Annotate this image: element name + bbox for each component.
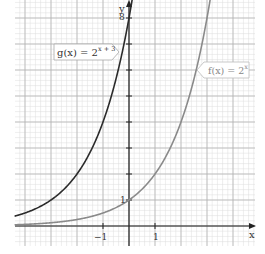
x-axis-label: x [249, 229, 255, 240]
plot-area: g(x) = 2x + 3 f(x) = 2x y 8 1 −1 1 x [0, 0, 265, 254]
f-label-text: f(x) = 2x [208, 63, 248, 76]
x-tick-neg1-label: −1 [94, 232, 107, 242]
graph-figure: g(x) = 2x + 3 f(x) = 2x y 8 1 −1 1 x [0, 0, 265, 254]
y-tick-1-label: 1 [120, 195, 126, 205]
major-grid [15, 0, 255, 246]
curve-g [15, 0, 133, 216]
x-tick-1-label: 1 [153, 232, 159, 242]
g-label-callout: g(x) = 2x + 3 [54, 44, 119, 60]
f-label-callout: f(x) = 2x [197, 62, 249, 78]
y-tick-8-label: 8 [119, 12, 125, 22]
